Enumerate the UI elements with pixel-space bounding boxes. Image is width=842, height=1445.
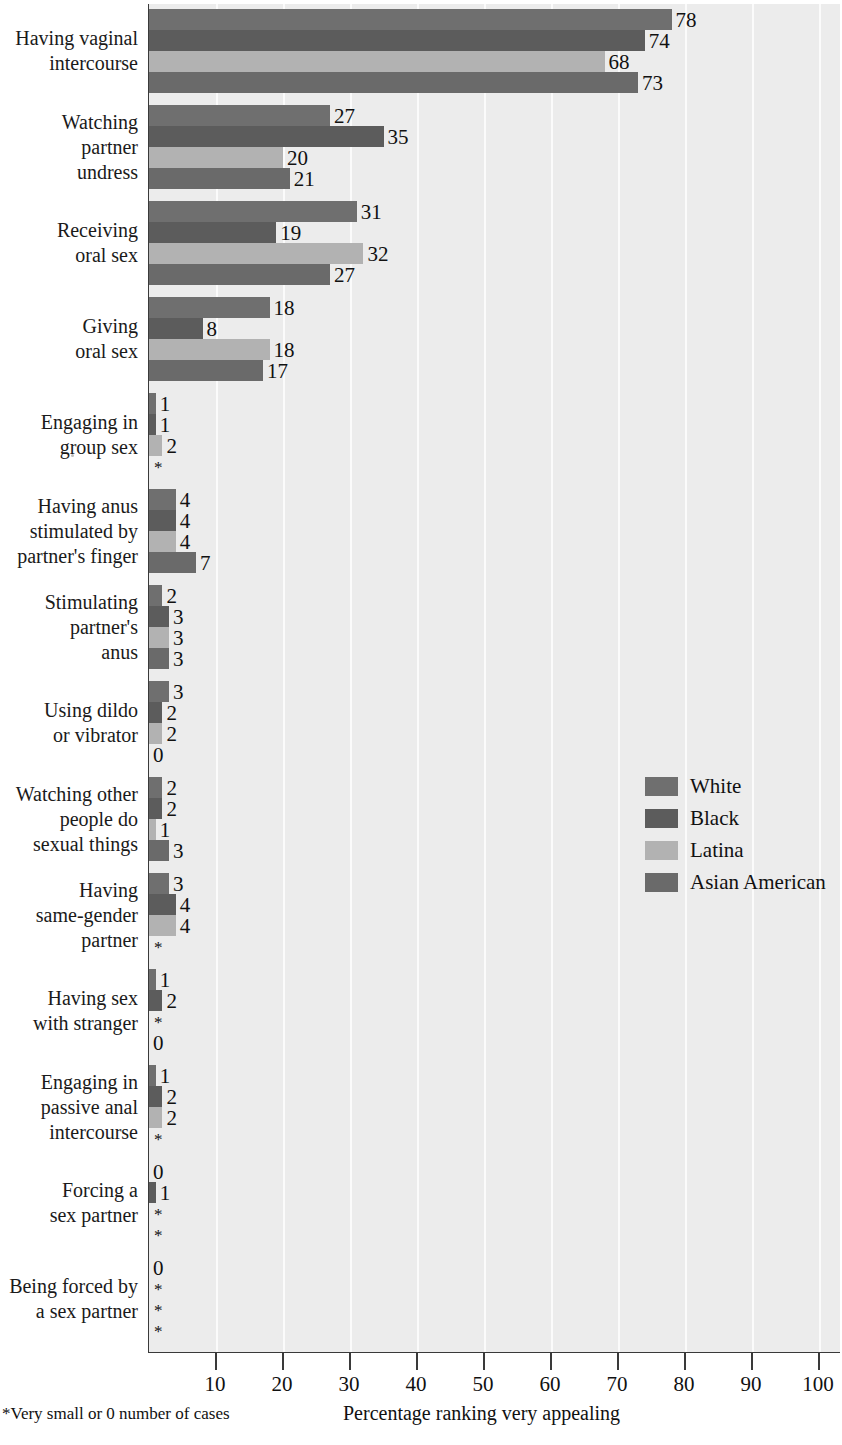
bar-latina <box>149 627 169 648</box>
category-label: Havingsame-genderpartner <box>0 878 138 953</box>
bar-row: 8 <box>149 318 840 339</box>
bar-black <box>149 1182 156 1203</box>
bar-white <box>149 969 156 990</box>
bar-value-label: 0 <box>149 1032 164 1053</box>
bar-value-label: 8 <box>203 318 218 339</box>
bar-row: 4 <box>149 489 840 510</box>
x-axis-tick-label: 100 <box>802 1374 834 1395</box>
bar-latina <box>149 531 176 552</box>
bar-white <box>149 393 156 414</box>
bar-black <box>149 702 162 723</box>
bar-group: 2333 <box>149 585 840 669</box>
bar-group: 122* <box>149 1065 840 1149</box>
bar-latina <box>149 819 156 840</box>
bar-value-label: 20 <box>283 147 308 168</box>
bar-value-label: 3 <box>169 873 184 894</box>
bar-asian-american <box>149 360 263 381</box>
bar-value-label: * <box>149 1013 163 1030</box>
bar-row: 18 <box>149 297 840 318</box>
legend-label: Black <box>690 808 739 829</box>
bar-row: 74 <box>149 30 840 51</box>
x-axis-tick-label: 80 <box>674 1374 695 1395</box>
category-label-line: Watching other <box>0 782 138 807</box>
category-label-line: partner <box>0 928 138 953</box>
category-label-line: Forcing a <box>0 1178 138 1203</box>
x-axis-tick-label: 20 <box>272 1374 293 1395</box>
category-label-line: or vibrator <box>0 723 138 748</box>
bar-value-label: 2 <box>162 702 177 723</box>
bar-row: 3 <box>149 606 840 627</box>
bar-value-label: 2 <box>162 723 177 744</box>
x-axis-tick-label: 10 <box>205 1374 226 1395</box>
x-axis-tick-label: 30 <box>339 1374 360 1395</box>
bar-row: 4 <box>149 510 840 531</box>
bar-white <box>149 105 330 126</box>
category-label-line: intercourse <box>0 1120 138 1145</box>
bar-row: 18 <box>149 339 840 360</box>
category-label: Stimulatingpartner'sanus <box>0 590 138 665</box>
category-label-line: Having sex <box>0 986 138 1011</box>
category-label-line: undress <box>0 160 138 185</box>
bar-row: 4 <box>149 531 840 552</box>
bar-value-label: 74 <box>645 30 670 51</box>
bar-row: 2 <box>149 585 840 606</box>
bar-value-label: 68 <box>605 51 630 72</box>
bar-group: 01** <box>149 1161 840 1245</box>
bar-value-label: 4 <box>176 510 191 531</box>
category-label-line: Stimulating <box>0 590 138 615</box>
bar-row: 20 <box>149 147 840 168</box>
bar-black <box>149 510 176 531</box>
x-axis-tick <box>751 1353 753 1370</box>
bar-value-label: 7 <box>196 552 211 573</box>
category-label-line: people do <box>0 807 138 832</box>
legend-swatch <box>645 777 678 796</box>
bar-value-label: 1 <box>156 393 171 414</box>
category-label-line: passive anal <box>0 1095 138 1120</box>
bar-value-label: 1 <box>156 819 171 840</box>
page-speck <box>71 454 74 457</box>
bar-row: * <box>149 1011 840 1032</box>
x-axis-tick <box>215 1353 217 1370</box>
category-label-line: sex partner <box>0 1203 138 1228</box>
bar-row: 1 <box>149 1182 840 1203</box>
category-label-line: same-gender <box>0 903 138 928</box>
category-label-line: Watching <box>0 110 138 135</box>
bar-value-label: 35 <box>384 126 409 147</box>
bar-asian-american <box>149 840 169 861</box>
bar-group: 3220 <box>149 681 840 765</box>
bar-black <box>149 222 276 243</box>
x-axis-tick-label: 90 <box>741 1374 762 1395</box>
bar-latina <box>149 723 162 744</box>
legend-swatch <box>645 809 678 828</box>
bar-row: 35 <box>149 126 840 147</box>
category-label-line: Having <box>0 878 138 903</box>
bar-value-label: 0 <box>149 744 164 765</box>
category-label-line: Having vaginal <box>0 26 138 51</box>
bar-value-label: 73 <box>638 72 663 93</box>
bar-row: 3 <box>149 648 840 669</box>
x-axis-tick <box>349 1353 351 1370</box>
bar-asian-american <box>149 72 638 93</box>
bar-row: * <box>149 936 840 957</box>
bar-black <box>149 318 203 339</box>
legend-item: Asian American <box>645 866 826 898</box>
bar-value-label: 3 <box>169 627 184 648</box>
category-label-line: Being forced by <box>0 1274 138 1299</box>
bar-latina <box>149 435 162 456</box>
category-label: Forcing asex partner <box>0 1178 138 1228</box>
bar-value-label: 78 <box>672 9 697 30</box>
bar-row: 7 <box>149 552 840 573</box>
category-label: Having vaginalintercourse <box>0 26 138 76</box>
category-label: Having sexwith stranger <box>0 986 138 1036</box>
bar-value-label: 18 <box>270 339 295 360</box>
bar-row: 17 <box>149 360 840 381</box>
bar-value-label: 0 <box>149 1161 164 1182</box>
x-axis-tick-label: 70 <box>607 1374 628 1395</box>
bar-value-label: 3 <box>169 840 184 861</box>
bar-white <box>149 9 672 30</box>
bar-row: 2 <box>149 702 840 723</box>
bar-asian-american <box>149 264 330 285</box>
bar-value-label: 3 <box>169 648 184 669</box>
bar-row: * <box>149 456 840 477</box>
bar-value-label: 17 <box>263 360 288 381</box>
